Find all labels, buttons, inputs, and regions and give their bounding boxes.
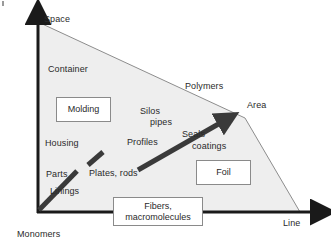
box-foil: Foil <box>196 160 251 185</box>
label-container: Container <box>48 64 88 75</box>
axis-label-monomers: Monomers <box>17 229 60 240</box>
box-molding-label: Molding <box>68 104 100 115</box>
axis-label-line: Line <box>283 218 300 229</box>
label-plates-rods: Plates, rods <box>89 168 138 179</box>
vertex-label-area: Area <box>247 100 266 111</box>
label-pipes: pipes <box>150 117 172 128</box>
label-parts: Parts <box>46 169 68 180</box>
box-molding: Molding <box>56 97 111 122</box>
box-fibers-label-line2: macromolecules <box>125 212 191 223</box>
box-fibers-macromolecules: Fibers, macromolecules <box>113 197 203 226</box>
box-foil-label: Foil <box>216 167 231 178</box>
label-coatings: coatings <box>192 141 226 152</box>
label-profiles: Profiles <box>127 137 158 148</box>
label-seals: Seals <box>182 129 205 140</box>
box-fibers-label-line1: Fibers, <box>144 201 172 212</box>
label-silos: Silos <box>140 106 160 117</box>
label-housing: Housing <box>45 138 79 149</box>
axis-label-space: Space <box>44 14 70 25</box>
label-linings: Linings <box>50 186 79 197</box>
diagram-canvas: Space Line Monomers Area Container Polym… <box>0 0 331 251</box>
label-polymers: Polymers <box>185 81 223 92</box>
